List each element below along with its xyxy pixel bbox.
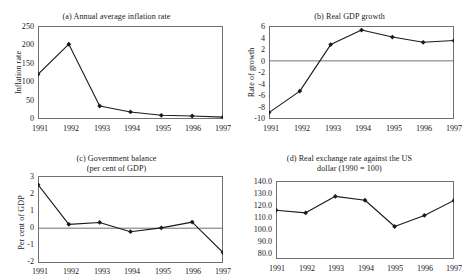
chart-a-ytick-3: 100: [10, 78, 34, 86]
chart-panel-b: (b) Real GDP growth Rate of growth 6 4 2…: [233, 0, 466, 139]
chart-a-ytick-0: 250: [10, 23, 34, 31]
chart-panel-c: (c) Government balance (per cent of GDP)…: [0, 140, 233, 279]
data-point-marker: [221, 115, 223, 119]
chart-b-ytick-0: 6: [245, 23, 265, 31]
chart-d-xtick-4: 1995: [379, 264, 411, 273]
data-point-marker: [422, 213, 427, 218]
chart-d-title-line1: (d) Real exchange rate against the US: [287, 154, 412, 163]
data-point-marker: [452, 38, 454, 43]
chart-b-xtick-1: 1992: [286, 124, 318, 133]
chart-b-plot-area: [269, 26, 454, 119]
chart-c-ytick-3: 0: [14, 224, 34, 232]
chart-a-plot-area: [38, 26, 223, 119]
chart-a-xtick-1: 1992: [55, 124, 87, 133]
chart-d-ytick-2: 120.0: [236, 202, 272, 210]
chart-b-ytick-3: 0: [245, 58, 265, 66]
data-point-marker: [190, 114, 195, 119]
chart-d-ytick-5: 90.0: [236, 238, 272, 246]
chart-a-xtick-0: 1991: [24, 124, 56, 133]
chart-b-xtick-4: 1995: [378, 124, 410, 133]
data-point-marker: [97, 220, 102, 225]
chart-b-xtick-3: 1994: [347, 124, 379, 133]
chart-c-xtick-5: 1996: [177, 267, 209, 276]
chart-c-xtick-1: 1992: [55, 267, 87, 276]
chart-d-xtick-6: 1997: [438, 264, 466, 273]
chart-a-ytick-4: 50: [10, 97, 34, 105]
chart-a-ytick-1: 200: [10, 41, 34, 49]
data-point-marker: [276, 208, 278, 213]
chart-c-ytick-0: 3: [14, 173, 34, 181]
data-point-marker: [359, 28, 364, 33]
chart-c-xtick-2: 1993: [86, 267, 118, 276]
chart-d-xtick-3: 1994: [350, 264, 382, 273]
chart-d-ytick-1: 130.0: [236, 190, 272, 198]
data-point-marker: [421, 40, 426, 45]
chart-b-ytick-8: -10: [238, 115, 265, 123]
chart-b-xtick-6: 1997: [438, 124, 466, 133]
chart-d-series: [276, 181, 454, 259]
chart-b-ytick-5: -4: [241, 81, 265, 89]
data-point-marker: [159, 225, 164, 230]
chart-panel-d: (d) Real exchange rate against the US do…: [233, 140, 466, 279]
chart-d-ytick-4: 100.0: [236, 226, 272, 234]
chart-a-series: [38, 26, 223, 119]
data-point-marker: [128, 229, 133, 234]
chart-a-title: (a) Annual average inflation rate: [0, 12, 233, 22]
chart-b-series: [269, 26, 454, 119]
chart-b-ytick-6: -6: [241, 92, 265, 100]
chart-b-ytick-1: 4: [245, 35, 265, 43]
chart-b-xtick-5: 1996: [408, 124, 440, 133]
chart-d-xtick-2: 1993: [320, 264, 352, 273]
chart-a-ytick-5: 0: [10, 115, 34, 123]
chart-a-ytick-2: 150: [10, 60, 34, 68]
data-point-marker: [303, 210, 308, 215]
chart-b-xtick-2: 1993: [317, 124, 349, 133]
chart-a-xtick-5: 1996: [177, 124, 209, 133]
chart-c-title-line2: (per cent of GDP): [0, 164, 233, 174]
chart-c-xtick-0: 1991: [24, 267, 56, 276]
figure-sheet: (a) Annual average inflation rate Inflat…: [0, 0, 466, 279]
chart-c-plot-area: [38, 176, 223, 263]
chart-panel-a: (a) Annual average inflation rate Inflat…: [0, 0, 233, 139]
chart-b-ytick-2: 2: [245, 46, 265, 54]
data-point-marker: [97, 104, 102, 109]
chart-a-xtick-3: 1994: [116, 124, 148, 133]
chart-a-xtick-2: 1993: [86, 124, 118, 133]
chart-b-xtick-0: 1991: [255, 124, 287, 133]
chart-d-ytick-0: 140.0: [236, 178, 272, 186]
data-point-marker: [390, 35, 395, 40]
chart-b-ytick-7: -8: [241, 104, 265, 112]
chart-c-series: [38, 176, 223, 263]
data-point-marker: [128, 110, 133, 115]
chart-d-xtick-5: 1996: [409, 264, 441, 273]
chart-c-title-line1: (c) Government balance: [77, 154, 157, 163]
chart-b-title: (b) Real GDP growth: [233, 12, 466, 22]
chart-c-ytick-5: -2: [10, 258, 34, 266]
chart-d-title: (d) Real exchange rate against the US do…: [233, 154, 466, 174]
chart-d-ytick-6: 80.0: [236, 250, 272, 258]
chart-b-ytick-4: -2: [241, 69, 265, 77]
chart-d-xtick-0: 1991: [261, 264, 293, 273]
chart-c-xtick-3: 1994: [116, 267, 148, 276]
chart-c-title: (c) Government balance (per cent of GDP): [0, 154, 233, 174]
data-point-marker: [452, 198, 454, 203]
chart-d-xtick-1: 1992: [291, 264, 323, 273]
chart-a-xtick-4: 1995: [147, 124, 179, 133]
chart-d-ytick-3: 110.0: [236, 214, 272, 222]
chart-c-ytick-4: -1: [10, 241, 34, 249]
chart-d-title-line2: dollar (1990 = 100): [233, 164, 466, 174]
chart-c-ytick-1: 2: [14, 190, 34, 198]
chart-c-ytick-2: 1: [14, 207, 34, 215]
data-point-marker: [159, 113, 164, 118]
chart-d-plot-area: [276, 181, 454, 259]
chart-c-xtick-4: 1995: [147, 267, 179, 276]
data-point-marker: [333, 194, 338, 199]
